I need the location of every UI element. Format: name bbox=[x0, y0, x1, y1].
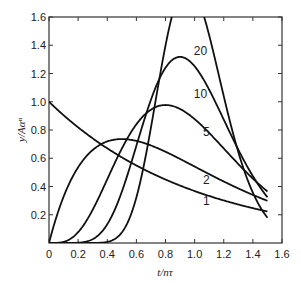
curve-label: 2 bbox=[203, 173, 210, 187]
curve-label: 10 bbox=[194, 87, 208, 101]
y-tick-label: 1.2 bbox=[31, 68, 46, 80]
curves bbox=[49, 0, 267, 243]
curve-n-20 bbox=[49, 0, 267, 243]
curve-n-1 bbox=[49, 102, 267, 212]
y-tick-labels: 0.20.40.60.81.01.21.41.6 bbox=[31, 11, 46, 221]
curve-label: 1 bbox=[203, 194, 210, 208]
curve-label: 20 bbox=[194, 44, 208, 58]
curve-label: 5 bbox=[203, 125, 210, 139]
x-tick-label: 0.6 bbox=[129, 248, 144, 260]
x-tick-label: 0.2 bbox=[70, 248, 85, 260]
x-tick-label: 0 bbox=[46, 248, 52, 260]
x-tick-labels: 00.20.40.60.81.01.21.41.6 bbox=[46, 248, 290, 260]
x-tick-label: 1.6 bbox=[274, 248, 289, 260]
axis-ticks bbox=[49, 17, 282, 243]
x-tick-label: 0.4 bbox=[100, 248, 115, 260]
chart: 00.20.40.60.81.01.21.41.6 0.20.40.60.81.… bbox=[0, 0, 301, 283]
x-tick-label: 1.4 bbox=[245, 248, 260, 260]
x-tick-label: 1.2 bbox=[216, 248, 231, 260]
x-tick-label: 1.0 bbox=[187, 248, 202, 260]
y-tick-label: 1.6 bbox=[31, 11, 46, 23]
curve-n-5 bbox=[49, 105, 267, 243]
plot-frame bbox=[49, 17, 282, 243]
plot-area: 00.20.40.60.81.01.21.41.6 0.20.40.60.81.… bbox=[31, 0, 290, 260]
y-tick-label: 1.0 bbox=[31, 96, 46, 108]
y-tick-label: 0.2 bbox=[31, 209, 46, 221]
x-axis-label: t/nτ bbox=[157, 266, 174, 278]
y-tick-label: 0.8 bbox=[31, 124, 46, 136]
y-axis-label: y/Aαⁿ bbox=[15, 118, 27, 143]
y-tick-label: 1.4 bbox=[31, 39, 46, 51]
y-tick-label: 0.4 bbox=[31, 181, 46, 193]
y-tick-label: 0.6 bbox=[31, 152, 46, 164]
x-tick-label: 0.8 bbox=[158, 248, 173, 260]
